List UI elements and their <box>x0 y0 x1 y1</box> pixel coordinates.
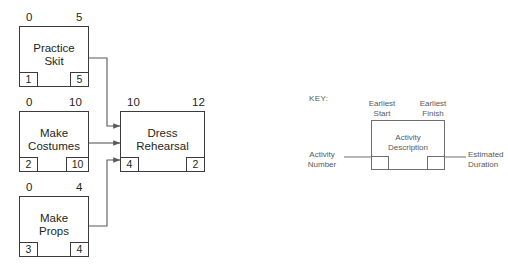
make-props-earliest-start-label: 0 <box>26 181 32 193</box>
node-make-costumes-activity-number: 2 <box>20 157 38 171</box>
node-make-costumes[interactable]: Make Costumes 2 10 <box>19 111 89 172</box>
node-make-costumes-title: Make Costumes <box>20 126 88 152</box>
node-make-props-activity-number: 3 <box>20 242 38 256</box>
node-make-props-title: Make Props <box>20 211 88 237</box>
key-earliest-start-line1: Earliest <box>369 99 396 108</box>
node-dress-rehearsal-title-line2: Rehearsal <box>121 139 204 152</box>
make-props-earliest-finish-label: 4 <box>76 181 82 193</box>
node-make-props[interactable]: Make Props 3 4 <box>19 196 89 257</box>
node-dress-rehearsal-title: Dress Rehearsal <box>121 126 204 152</box>
node-dress-rehearsal-activity-number: 4 <box>121 157 139 171</box>
key-title: KEY: <box>309 94 328 103</box>
key-estimated-duration-line1: Estimated <box>468 150 504 159</box>
key-earliest-finish-line1: Earliest <box>420 99 447 108</box>
key-activity-number-line1: Activity <box>309 150 334 159</box>
node-dress-rehearsal[interactable]: Dress Rehearsal 4 2 <box>120 111 205 172</box>
node-make-costumes-title-line1: Make <box>20 126 88 139</box>
edge-practice-skit-to-dress-rehearsal <box>89 58 120 126</box>
make-costumes-earliest-finish-label: 10 <box>69 96 82 108</box>
node-practice-skit-title: Practice Skit <box>20 41 88 67</box>
key-activity-node: Activity Description <box>371 120 445 170</box>
key-earliest-finish-line2: Finish <box>422 109 443 118</box>
key-estimated-duration-line2: Duration <box>468 160 498 169</box>
key-estimated-duration-caption: Estimated Duration <box>468 150 508 169</box>
practice-skit-earliest-finish-label: 5 <box>76 11 82 23</box>
key-activity-number-line2: Number <box>308 160 336 169</box>
key-activity-description: Activity Description <box>372 133 444 152</box>
make-costumes-earliest-start-label: 0 <box>26 96 32 108</box>
node-make-costumes-title-line2: Costumes <box>20 139 88 152</box>
key-estimated-duration-cell <box>427 156 444 169</box>
node-practice-skit-activity-number: 1 <box>20 72 38 86</box>
node-make-props-title-line1: Make <box>20 211 88 224</box>
dress-rehearsal-earliest-finish-label: 12 <box>192 96 205 108</box>
node-make-costumes-estimated-duration: 10 <box>66 157 88 171</box>
dress-rehearsal-earliest-start-label: 10 <box>127 96 140 108</box>
key-earliest-start-line2: Start <box>374 109 391 118</box>
practice-skit-earliest-start-label: 0 <box>26 11 32 23</box>
key-activity-number-cell <box>372 156 389 169</box>
node-practice-skit[interactable]: Practice Skit 1 5 <box>19 26 89 87</box>
key-activity-number-caption: Activity Number <box>300 150 344 169</box>
key-earliest-finish-caption: Earliest Finish <box>413 99 453 118</box>
node-make-props-title-line2: Props <box>20 224 88 237</box>
node-dress-rehearsal-title-line1: Dress <box>121 126 204 139</box>
node-practice-skit-title-line2: Skit <box>20 54 88 67</box>
node-dress-rehearsal-estimated-duration: 2 <box>186 157 204 171</box>
key-activity-description-line1: Activity <box>395 133 420 142</box>
node-practice-skit-title-line1: Practice <box>20 41 88 54</box>
key-activity-description-line2: Description <box>372 143 444 153</box>
edge-make-props-to-dress-rehearsal <box>89 160 120 226</box>
key-earliest-start-caption: Earliest Start <box>362 99 402 118</box>
node-make-props-estimated-duration: 4 <box>70 242 88 256</box>
node-practice-skit-estimated-duration: 5 <box>70 72 88 86</box>
